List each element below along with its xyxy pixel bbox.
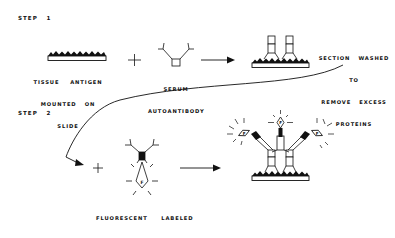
plus-icon	[93, 163, 103, 173]
label-line: ANTI — HUMAN	[96, 237, 192, 238]
serum-autoantibody-label: SERUM AUTOANTIBODY	[148, 71, 204, 123]
tissue-antigen-label: TISSUE ANTIGEN MOUNTED ON SLIDE	[30, 64, 106, 138]
label-line: FLUORESCENT LABELED	[96, 215, 192, 222]
fluor-tag-label: F	[279, 120, 282, 125]
tissue-antigen-slide-icon	[48, 51, 106, 61]
fluor-tag-label: F	[243, 131, 246, 136]
serum-autoantibody-icon	[158, 43, 194, 66]
label-line: PROTEINS	[313, 121, 395, 128]
label-line: SLIDE	[30, 123, 106, 130]
label-line: AUTOANTIBODY	[148, 108, 204, 115]
arrow-right-icon	[201, 57, 235, 64]
label-line: MOUNTED ON	[30, 101, 106, 108]
fluorescent-antibody-icon	[125, 139, 159, 195]
curved-arrow-icon	[66, 65, 343, 166]
label-line: SECTION WASHED	[313, 55, 395, 62]
section-washed-label: SECTION WASHED TO REMOVE EXCESS PROTEINS	[313, 40, 395, 136]
label-line: TO	[313, 77, 395, 84]
plus-icon	[128, 54, 141, 66]
fluor-tag-label: F	[140, 180, 143, 185]
fluorescent-antibody-label: FLUORESCENT LABELED ANTI — HUMAN IMMUNOG…	[96, 200, 192, 238]
arrow-right-icon	[180, 165, 221, 172]
label-line: REMOVE EXCESS	[313, 99, 395, 106]
label-line: TISSUE ANTIGEN	[30, 79, 106, 86]
antibody-bound-slide-icon	[252, 36, 309, 68]
step-1-label: STEP 1	[18, 15, 52, 21]
label-line: SERUM	[148, 86, 204, 93]
